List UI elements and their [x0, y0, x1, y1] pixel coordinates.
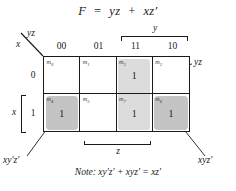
- axis-label-x: x: [16, 39, 20, 49]
- cell-value-m7: 1: [117, 108, 152, 119]
- column-header-00: 00: [43, 41, 80, 51]
- minterm-index-m4: 4: [51, 99, 53, 104]
- minterm-label-m4: m4: [47, 95, 54, 104]
- minterm-label-m5: m5: [83, 95, 90, 104]
- kmap-cell-m1[interactable]: m1: [80, 57, 116, 94]
- kmap-cell-m3[interactable]: m3 1: [117, 57, 153, 94]
- kmap-cell-m2[interactable]: m2: [153, 57, 189, 94]
- column-header-01: 01: [80, 41, 117, 51]
- row-header-0: 0: [27, 70, 39, 80]
- minterm-index-m6: 6: [160, 99, 162, 104]
- kmap-figure: F = yz + xz′ yz x 00 01 11 10 y 0 1 x m0: [0, 0, 236, 191]
- cell-value-m3: 1: [117, 70, 152, 81]
- figure-note: Note: xy′z′ + xyz′ = xz′: [0, 167, 236, 177]
- x-brace: [21, 95, 26, 133]
- minterm-label-m1: m1: [83, 58, 90, 67]
- minterm-label-m3: m3: [119, 58, 126, 67]
- callout-yz: yz: [194, 57, 202, 67]
- minterm-label-m2: m2: [155, 58, 162, 67]
- minterm-index-m0: 0: [51, 62, 53, 67]
- minterm-label-m0: m0: [47, 58, 54, 67]
- callout-xy-z-prime: xy′z′: [3, 155, 19, 165]
- axis-label-yz: yz: [27, 28, 35, 38]
- kmap-cell-m5[interactable]: m5: [80, 94, 116, 131]
- kmap-cell-m7[interactable]: m7 1: [117, 94, 153, 131]
- kmap-cell-m4[interactable]: m4 1: [44, 94, 80, 131]
- z-brace-label: z: [87, 146, 149, 156]
- y-brace-label: y: [124, 23, 186, 33]
- kmap-cell-m0[interactable]: m0: [44, 57, 80, 94]
- cell-value-m6: 1: [153, 108, 189, 119]
- column-header-10: 10: [154, 41, 191, 51]
- minterm-index-m5: 5: [87, 99, 89, 104]
- minterm-label-m7: m7: [119, 95, 126, 104]
- x-brace-label: x: [8, 107, 20, 117]
- kmap-grid: m0 m1 m3 1 m2 m4 1 m5: [43, 56, 190, 132]
- minterm-index-m2: 2: [160, 62, 162, 67]
- minterm-label-m6: m6: [155, 95, 162, 104]
- y-brace: [121, 36, 188, 41]
- callout-xyz-prime: xyz′: [198, 155, 212, 165]
- row-header-1: 1: [27, 108, 39, 118]
- minterm-index-m1: 1: [87, 62, 89, 67]
- kmap-cell-m6[interactable]: m6 1: [153, 94, 189, 131]
- column-header-11: 11: [117, 41, 154, 51]
- cell-value-m4: 1: [44, 108, 79, 119]
- minterm-index-m7: 7: [123, 99, 125, 104]
- minterm-index-m3: 3: [123, 62, 125, 67]
